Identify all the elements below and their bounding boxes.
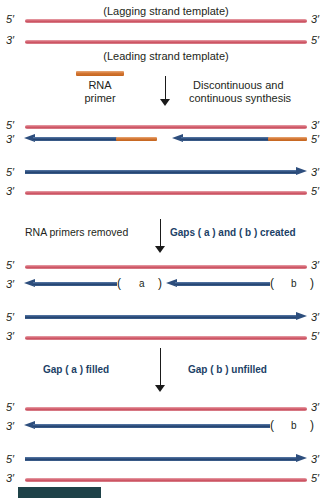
p3-top-right-end: 3′ bbox=[311, 259, 319, 271]
lagging-strand-template-caption: (Lagging strand template) bbox=[103, 5, 228, 17]
p3-bottom-right-end: 5′ bbox=[311, 330, 319, 342]
p2-bottom-right-end: 5′ bbox=[311, 185, 319, 197]
p3-bottom-left-end: 3′ bbox=[6, 330, 14, 342]
gap-b-unfilled-label: Gap ( b ) unfilled bbox=[188, 364, 267, 376]
step-arrow-1 bbox=[160, 76, 171, 106]
p3-fragment-1 bbox=[24, 279, 117, 288]
gap-b-letter: b bbox=[291, 278, 297, 290]
gap-b-close-paren: ) bbox=[310, 277, 314, 289]
p2-okazaki-right-end: 5′ bbox=[311, 133, 319, 145]
p2-leading-left-end: 5′ bbox=[6, 166, 14, 178]
p3-leading-left-end: 5′ bbox=[6, 311, 14, 323]
rna-primer-swatch bbox=[76, 71, 124, 76]
p2-leading-right-end: 3′ bbox=[311, 166, 319, 178]
gaps-created-label: Gaps ( a ) and ( b ) created bbox=[170, 227, 296, 239]
p1-top-right-end: 3′ bbox=[311, 13, 319, 25]
p4-gap-b-open-paren: ( bbox=[270, 419, 274, 431]
p3-leading-strand-template bbox=[25, 336, 307, 340]
p2-lagging-strand-template bbox=[25, 125, 307, 129]
gap-a-close-paren: ) bbox=[158, 277, 162, 289]
p4-leading-strand-template bbox=[25, 478, 307, 482]
p4-bottom-right-end: 5′ bbox=[311, 472, 319, 484]
gap-a-letter: a bbox=[139, 278, 145, 290]
gap-a-open-paren: ( bbox=[117, 277, 121, 289]
p2-bottom-left-end: 3′ bbox=[6, 185, 14, 197]
p3-leading-right-end: 3′ bbox=[311, 311, 319, 323]
p2-leading-strand-nascent bbox=[25, 167, 307, 176]
p4-bottom-left-end: 3′ bbox=[6, 472, 14, 484]
synthesis-label-line1: Discontinuous and bbox=[193, 79, 284, 91]
p2-top-left-end: 5′ bbox=[6, 119, 14, 131]
p4-lagging-left-end: 3′ bbox=[6, 420, 14, 432]
p4-leading-right-end: 3′ bbox=[311, 453, 319, 465]
p3-top-left-end: 5′ bbox=[6, 259, 14, 271]
step-arrow-3 bbox=[155, 366, 166, 392]
gap-a-filled-label: Gap ( a ) filled bbox=[43, 364, 109, 376]
dna-replication-diagram: (Lagging strand template) 5′ 3′ 3′ 5′ (L… bbox=[0, 0, 332, 498]
p3-lagging-strand-template bbox=[25, 265, 307, 269]
p2-okazaki-left-end: 3′ bbox=[6, 133, 14, 145]
rna-primer-label-line2: primer bbox=[84, 92, 115, 104]
p4-lagging-strand-template bbox=[25, 407, 307, 411]
p2-okazaki-fragment-1-dna bbox=[24, 134, 120, 143]
p2-okazaki-fragment-2-dna bbox=[172, 134, 272, 143]
synthesis-label-line2: continuous synthesis bbox=[189, 92, 291, 104]
p4-leading-left-end: 5′ bbox=[6, 453, 14, 465]
footer-bar bbox=[18, 487, 101, 498]
p4-lagging-strand-nascent bbox=[24, 421, 270, 430]
p3-lagging-left-end: 3′ bbox=[6, 278, 14, 290]
p2-okazaki-fragment-1-primer bbox=[116, 137, 157, 141]
rna-primer-label-line1: RNA bbox=[88, 79, 111, 91]
p3-fragment-2 bbox=[166, 279, 270, 288]
p1-lagging-strand-template bbox=[25, 19, 307, 23]
p1-bottom-right-end: 5′ bbox=[311, 34, 319, 46]
rna-primers-removed-label: RNA primers removed bbox=[25, 226, 128, 238]
p2-okazaki-fragment-2-primer bbox=[268, 137, 307, 141]
p4-gap-b-letter: b bbox=[291, 420, 297, 432]
gap-b-open-paren: ( bbox=[270, 277, 274, 289]
step-arrow-3-stem bbox=[160, 348, 161, 366]
p3-leading-strand-nascent bbox=[25, 312, 307, 321]
p4-top-left-end: 5′ bbox=[6, 401, 14, 413]
step-arrow-2 bbox=[155, 219, 166, 253]
p2-leading-strand-template bbox=[25, 191, 307, 195]
p1-leading-strand-template bbox=[25, 40, 307, 44]
p1-bottom-left-end: 3′ bbox=[6, 34, 14, 46]
leading-strand-template-caption: (Leading strand template) bbox=[103, 50, 228, 62]
p1-top-left-end: 5′ bbox=[6, 13, 14, 25]
p4-leading-strand-nascent bbox=[25, 454, 307, 463]
p4-gap-b-close-paren: ) bbox=[310, 419, 314, 431]
p4-top-right-end: 3′ bbox=[311, 401, 319, 413]
p2-top-right-end: 3′ bbox=[311, 119, 319, 131]
